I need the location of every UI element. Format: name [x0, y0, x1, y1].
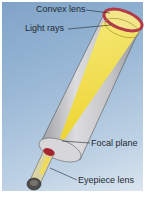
label-convex-lens: Convex lens: [36, 4, 86, 14]
eyepiece-leader-line: [50, 168, 77, 180]
label-light-rays: Light rays: [25, 23, 64, 33]
label-eyepiece-lens: Eyepiece lens: [78, 175, 134, 185]
telescope-illustration: [0, 0, 154, 198]
label-focal-plane: Focal plane: [91, 138, 138, 148]
eyepiece-lens-icon: [27, 178, 41, 190]
